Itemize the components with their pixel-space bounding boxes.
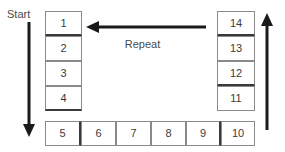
cell-6: 6 xyxy=(81,121,116,146)
cell-label: 7 xyxy=(130,128,136,139)
cell-3: 3 xyxy=(45,61,82,86)
cell-label: 4 xyxy=(60,93,66,104)
cell-label: 8 xyxy=(165,128,171,139)
cell-label: 11 xyxy=(230,93,241,104)
cell-10: 10 xyxy=(221,121,255,146)
repeat-label: Repeat xyxy=(0,39,285,50)
cell-label: 9 xyxy=(200,128,206,139)
cell-1: 1 xyxy=(45,11,82,36)
cell-label: 12 xyxy=(230,68,242,79)
cell-14: 14 xyxy=(217,11,255,36)
cell-label: 3 xyxy=(60,68,66,79)
cell-5: 5 xyxy=(45,121,81,146)
cell-label: 1 xyxy=(60,18,66,29)
cell-4: 4 xyxy=(45,86,82,111)
cell-label: 10 xyxy=(232,128,244,139)
start-label: Start xyxy=(7,9,30,20)
cell-8: 8 xyxy=(151,121,186,146)
cell-label: 5 xyxy=(59,128,65,139)
serpentine-path-diagram: 1 2 3 4 5 6 7 8 9 10 14 13 12 11 Start R… xyxy=(0,0,285,152)
cell-7: 7 xyxy=(116,121,151,146)
cell-12: 12 xyxy=(217,61,255,86)
cell-11: 11 xyxy=(217,86,255,111)
cell-label: 6 xyxy=(95,128,101,139)
repeat-left-arrow-icon xyxy=(86,21,206,33)
return-up-arrow-icon xyxy=(261,13,273,130)
cell-9: 9 xyxy=(186,121,221,146)
cell-label: 14 xyxy=(230,18,242,29)
